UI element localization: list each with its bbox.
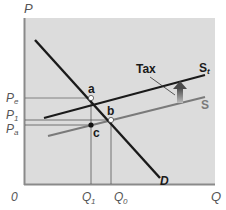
price-label-pe: P e [6,91,19,106]
svg-text:a: a [14,128,19,137]
point-c-label: c [93,126,100,140]
price-label-pa: P a [6,122,19,137]
point-a-label: a [88,82,95,96]
tax-label: Tax [136,62,156,76]
y-axis-label: P [24,1,33,16]
svg-text:Q: Q [82,190,91,204]
supply-label: S [201,98,209,112]
svg-text:P: P [6,108,14,122]
svg-text:S: S [199,61,207,75]
svg-text:1: 1 [14,114,18,123]
svg-text:t: t [207,67,210,76]
svg-text:e: e [14,97,19,106]
tax-incidence-diagram: a b c D S S t Tax P Q 0 P e P 1 P a Q 1 … [0,0,226,210]
svg-text:P: P [6,122,14,136]
svg-text:Q: Q [114,190,123,204]
svg-text:1: 1 [91,197,95,206]
quantity-label-q0: Q 0 [114,190,128,206]
origin-label: 0 [11,190,18,204]
price-label-p1: P 1 [6,108,18,123]
point-b-label: b [107,104,114,118]
quantity-label-q1: Q 1 [82,190,95,206]
demand-label: D [160,174,169,188]
x-axis-label: Q [211,189,221,204]
svg-text:0: 0 [123,197,128,206]
point-a-marker [88,95,93,100]
svg-text:P: P [6,91,14,105]
point-b-marker [108,117,113,122]
